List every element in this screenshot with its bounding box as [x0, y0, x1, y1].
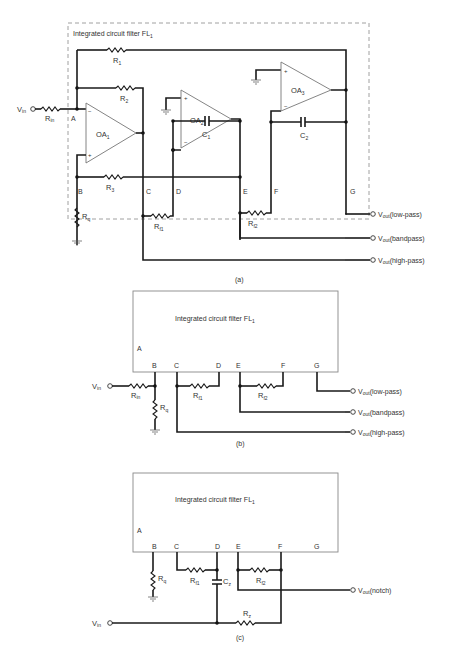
resistor-rq-icon — [153, 400, 157, 419]
pin-f: F — [274, 188, 278, 195]
label-rf2: Rf2 — [256, 576, 266, 586]
pin-c: C — [174, 362, 179, 369]
label-vout-lowpass: Vout(low-pass) — [358, 388, 402, 396]
resistor-rq-icon — [75, 208, 79, 227]
caption-a: (a) — [235, 276, 244, 284]
svg-text:+: + — [184, 95, 188, 101]
pin-c: C — [174, 543, 179, 550]
panel-a: Integrated circuit filter FL1 R1 R2 Vin … — [17, 23, 425, 284]
svg-text:−: − — [184, 139, 188, 145]
vout-notch-terminal[interactable] — [351, 588, 356, 593]
pin-d: D — [215, 543, 220, 550]
ic-title: Integrated circuit filter FL1 — [175, 315, 255, 324]
ic-title: Integrated circuit filter FL1 — [175, 496, 255, 505]
ic-title: Integrated circuit filter FL1 — [73, 30, 153, 39]
label-rf1: Rf1 — [154, 222, 164, 232]
pin-g: G — [350, 188, 355, 195]
resistor-rf1-icon — [151, 214, 170, 218]
resistor-rf1-icon — [190, 384, 209, 388]
vin-terminal[interactable] — [108, 621, 113, 626]
label-rf1: Rf1 — [190, 576, 200, 586]
label-rf2: Rf2 — [248, 219, 258, 229]
ground-icon — [150, 430, 160, 434]
ground-icon — [161, 110, 171, 114]
vin-terminal[interactable] — [108, 384, 113, 389]
svg-text:+: + — [88, 152, 92, 158]
label-c2: C2 — [300, 131, 308, 141]
pin-e: E — [236, 362, 241, 369]
svg-text:−: − — [284, 103, 288, 109]
panel-c: Integrated circuit filter FL1 A B C D E … — [92, 473, 391, 642]
resistor-rin-icon — [41, 107, 60, 111]
pin-d: D — [216, 362, 221, 369]
label-vout-highpass: Vout(high-pass) — [358, 429, 405, 437]
label-vout-highpass: Vout(high-pass) — [378, 257, 425, 265]
label-vin: Vin — [17, 105, 26, 114]
pin-g: G — [314, 543, 319, 550]
ground-icon — [251, 80, 261, 84]
vout-bandpass-terminal[interactable] — [351, 410, 356, 415]
resistor-rf1-icon — [186, 568, 205, 572]
label-vout-notch: Vout(notch) — [358, 587, 391, 595]
pin-g: G — [314, 362, 319, 369]
label-rq: Rq — [82, 212, 90, 222]
pin-b: B — [152, 362, 157, 369]
ic-block — [133, 473, 338, 552]
pin-a: A — [71, 115, 76, 122]
svg-text:+: + — [284, 68, 288, 74]
pin-e: E — [236, 543, 241, 550]
svg-text:−: − — [88, 108, 92, 114]
pin-e: E — [243, 188, 248, 195]
panel-b: Integrated circuit filter FL1 A B C D E … — [92, 291, 405, 448]
label-rf2: Rf2 — [258, 391, 268, 401]
capacitor-c2-icon — [301, 117, 305, 127]
resistor-rf2-icon — [250, 568, 269, 572]
pin-f: F — [281, 362, 285, 369]
label-rin: Rin — [131, 391, 141, 400]
opamp-oa3 — [281, 62, 331, 111]
resistor-rq-icon — [151, 571, 155, 590]
pin-f: F — [278, 543, 282, 550]
resistor-r2-icon — [116, 86, 135, 90]
label-rz: Rz — [243, 609, 251, 619]
label-vout-lowpass: Vout(low-pass) — [378, 211, 422, 219]
pin-b: B — [152, 543, 157, 550]
label-rq: Rq — [160, 403, 168, 413]
pin-b: B — [78, 188, 83, 195]
resistor-rz-icon — [236, 621, 255, 625]
resistor-rf2-icon — [257, 384, 276, 388]
label-cz: Cz — [223, 577, 231, 587]
capacitor-cz-icon — [212, 580, 222, 584]
label-r3: R3 — [106, 183, 114, 193]
opamp-oa1 — [86, 103, 136, 163]
vout-highpass-terminal[interactable] — [371, 258, 376, 263]
resistor-rf2-icon — [247, 211, 266, 215]
vout-lowpass-terminal[interactable] — [371, 212, 376, 217]
label-vout-bandpass: Vout(bandpass) — [358, 409, 405, 417]
ground-icon — [148, 597, 158, 601]
resistor-rin-icon — [129, 384, 148, 388]
label-vout-bandpass: Vout(bandpass) — [378, 235, 425, 243]
vout-bandpass-terminal[interactable] — [371, 236, 376, 241]
pin-a: A — [137, 345, 142, 352]
ic-block — [133, 291, 338, 372]
label-rf1: Rf1 — [193, 391, 203, 401]
pin-d: D — [176, 188, 181, 195]
resistor-r1-icon — [107, 48, 126, 52]
vin-terminal[interactable] — [31, 107, 36, 112]
label-r1: R1 — [113, 56, 121, 66]
vout-lowpass-terminal[interactable] — [351, 389, 356, 394]
caption-b: (b) — [236, 440, 245, 448]
resistor-r3-icon — [104, 175, 123, 179]
opamp-oa2 — [181, 90, 231, 148]
filter-circuit-diagram: Integrated circuit filter FL1 R1 R2 Vin … — [0, 0, 450, 648]
vout-highpass-terminal[interactable] — [351, 430, 356, 435]
pin-a: A — [137, 527, 142, 534]
label-vin: Vin — [92, 382, 101, 391]
label-r2: R2 — [120, 94, 128, 104]
label-vin: Vin — [92, 619, 101, 628]
caption-c: (c) — [236, 634, 244, 642]
label-rq: Rq — [158, 574, 166, 584]
pin-c: C — [146, 188, 151, 195]
label-rin: Rin — [45, 114, 55, 123]
